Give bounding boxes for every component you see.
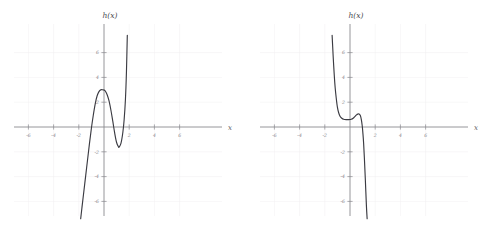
right-plot-svg: -6-4-2246-6-4-2246 h(x) x [246,0,492,233]
y-tick-label: 2 [341,100,345,105]
figure-canvas: -6-4-2246-6-4-2246 h(x) x -6-4-2246-6-4-… [0,0,492,233]
x-tick-label: -2 [77,133,82,138]
left-gridlines [14,24,222,216]
y-tick-label: 6 [96,50,99,55]
y-tick-label: 4 [95,75,99,80]
x-tick-label: 2 [373,133,377,138]
y-tick-label: 6 [342,50,345,55]
y-tick-label: -6 [341,199,346,204]
y-tick-label: 4 [341,75,345,80]
x-tick-label: 6 [178,133,181,138]
y-tick-label: -4 [95,174,100,179]
left-x-axis-label: x [228,123,232,132]
x-tick-label: -4 [297,133,302,138]
y-tick-label: -6 [95,199,100,204]
left-plot-svg: -6-4-2246-6-4-2246 h(x) x [0,0,246,233]
y-tick-label: -2 [341,150,346,155]
right-x-axis-label: x [474,123,478,132]
x-tick-label: -2 [323,133,328,138]
x-tick-label: -4 [51,133,56,138]
left-chart-title: h(x) [102,11,117,20]
x-tick-label: 2 [127,133,131,138]
y-tick-label: -4 [341,174,346,179]
right-chart-title: h(x) [348,11,363,20]
chart-panel-left: -6-4-2246-6-4-2246 h(x) x [0,0,246,233]
x-tick-label: -6 [26,133,31,138]
x-tick-label: 4 [152,133,156,138]
y-tick-label: -2 [95,150,100,155]
x-tick-label: -6 [272,133,277,138]
right-gridlines [260,24,468,216]
x-tick-label: 4 [398,133,402,138]
x-tick-label: 6 [424,133,427,138]
chart-panel-right: -6-4-2246-6-4-2246 h(x) x [246,0,492,233]
